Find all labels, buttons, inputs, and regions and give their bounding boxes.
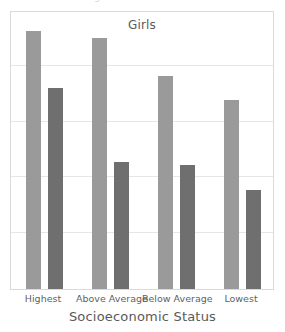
plot-area: Girls	[10, 11, 274, 290]
x-tick-label: Above Average	[76, 293, 142, 304]
bar-series-2-above-average	[114, 162, 129, 289]
bar-series-2-below-average	[180, 165, 195, 289]
bar-series-1-lowest	[224, 100, 239, 289]
bar-series-2-lowest	[246, 190, 261, 289]
bar-series-1-below-average	[158, 76, 173, 289]
x-tick-label: Lowest	[208, 293, 274, 304]
x-tick-label: Below Average	[142, 293, 208, 304]
x-axis-tick-labels: HighestAbove AverageBelow AverageLowest	[10, 293, 274, 309]
bar-series-1-highest	[26, 31, 41, 289]
bar-series-2-highest	[48, 88, 63, 289]
bar-chart-figure: Girls HighestAbove AverageBelow AverageL…	[0, 0, 285, 332]
bar-series-1-above-average	[92, 38, 107, 289]
x-tick-label: Highest	[10, 293, 76, 304]
x-axis-title: Socioeconomic Status	[0, 309, 285, 324]
bars-layer	[11, 12, 273, 289]
